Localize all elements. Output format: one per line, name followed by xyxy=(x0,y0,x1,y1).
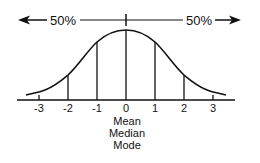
sd-lines xyxy=(39,30,213,100)
tick-label: 2 xyxy=(181,102,187,114)
central-tendency-labels: Mean Median Mode xyxy=(109,115,145,151)
mode-label: Mode xyxy=(113,139,141,151)
left-percent-label: 50% xyxy=(50,13,76,28)
tick-label: -1 xyxy=(92,102,102,114)
percent-arrows: 50% 50% xyxy=(18,13,241,28)
tick-label: 1 xyxy=(152,102,158,114)
normal-distribution-diagram: 50% 50% -3 -2 -1 0 1 2 3 Mean Median Mod… xyxy=(0,0,260,163)
tick-label: -3 xyxy=(34,102,44,114)
tick-label: -2 xyxy=(63,102,73,114)
tick-label: 3 xyxy=(210,102,216,114)
mean-label: Mean xyxy=(113,115,141,127)
right-percent-label: 50% xyxy=(186,13,212,28)
tick-label: 0 xyxy=(123,102,129,114)
axis-tick-labels: -3 -2 -1 0 1 2 3 xyxy=(34,102,216,114)
median-label: Median xyxy=(109,127,145,139)
